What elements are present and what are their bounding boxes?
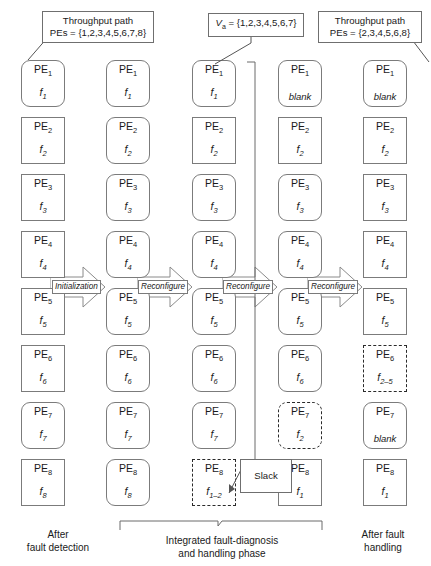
pe-box-after-fault-detection-pe7: PE7f7 <box>21 402 65 449</box>
callout-throughput-path-left: Throughput path PEs = {1,2,3,4,5,6,7,8} <box>42 11 154 43</box>
pe-task-label: f6 <box>107 372 149 387</box>
pe-task-label: f6 <box>193 372 235 387</box>
pe-id-label: PE7 <box>193 406 235 421</box>
pe-box-after-fault-handling-pe2: PE2f2 <box>363 117 407 164</box>
pe-id-label: PE3 <box>22 178 64 193</box>
pe-id-label: PE4 <box>279 235 321 250</box>
pe-box-after-fault-detection-pe4: PE4f4 <box>21 231 65 278</box>
pe-box-after-fault-handling-pe7: PE7blank <box>363 402 407 449</box>
caption-integrated-phase: Integrated fault-diagnosis and handling … <box>120 534 324 560</box>
pe-id-label: PE2 <box>193 121 235 136</box>
pe-id-label: PE4 <box>22 235 64 250</box>
pe-box-after-fault-handling-pe3: PE3f3 <box>363 174 407 221</box>
pe-box-after-fault-handling-pe6: PE6f2–5 <box>363 345 407 392</box>
pe-id-label: PE1 <box>107 64 149 79</box>
pe-box-initialized-pe8: PE8f8 <box>106 459 150 506</box>
pe-id-label: PE8 <box>364 463 406 478</box>
pe-box-after-fault-detection-pe5: PE5f5 <box>21 288 65 335</box>
pe-box-reconfigure-2-pe5: PE5f5 <box>278 288 322 335</box>
pe-box-after-fault-detection-pe6: PE6f6 <box>21 345 65 392</box>
pe-id-label: PE6 <box>193 349 235 364</box>
pe-box-reconfigure-2-pe6: PE6f6 <box>278 345 322 392</box>
callout-line-1: Throughput path <box>323 15 417 27</box>
arrow-label-reconfigure-1: Reconfigure <box>138 280 188 294</box>
pe-id-label: PE7 <box>364 406 406 421</box>
arrow-label-reconfigure-2: Reconfigure <box>223 280 273 294</box>
pe-id-label: PE3 <box>193 178 235 193</box>
pe-id-label: PE5 <box>364 292 406 307</box>
pe-box-initialized-pe5: PE5f5 <box>106 288 150 335</box>
pe-box-after-fault-handling-pe1: PE1blank <box>363 60 407 107</box>
pe-id-label: PE1 <box>364 64 406 79</box>
pe-box-initialized-pe2: PE2f2 <box>106 117 150 164</box>
pe-box-after-fault-handling-pe5: PE5f5 <box>363 288 407 335</box>
pe-id-label: PE6 <box>279 349 321 364</box>
pe-task-label: blank <box>279 91 321 102</box>
caption-line-1: After fault <box>340 528 426 541</box>
callout-va-text: Va = {1,2,3,4,5,6,7} <box>215 17 296 28</box>
pe-box-reconfigure-1-pe6: PE6f6 <box>192 345 236 392</box>
pe-id-label: PE7 <box>22 406 64 421</box>
caption-after-fault-handling: After fault handling <box>340 528 426 554</box>
pe-id-label: PE6 <box>364 349 406 364</box>
pe-task-label: f5 <box>107 315 149 330</box>
pe-task-label: f3 <box>364 201 406 216</box>
pe-id-label: PE4 <box>193 235 235 250</box>
leader-line-va <box>213 36 261 66</box>
arrow-label-initialization: Initialization <box>52 280 101 294</box>
caption-line-2: handling <box>340 541 426 554</box>
pe-id-label: PE3 <box>107 178 149 193</box>
pe-task-label: f4 <box>364 258 406 273</box>
pe-task-label: f4 <box>107 258 149 273</box>
pe-id-label: PE2 <box>279 121 321 136</box>
pe-task-label: f2 <box>22 144 64 159</box>
pe-task-label: f4 <box>193 258 235 273</box>
pe-task-label: f6 <box>22 372 64 387</box>
caption-line-2: fault detection <box>8 541 108 554</box>
pe-task-label: f5 <box>279 315 321 330</box>
pe-task-label: f5 <box>364 315 406 330</box>
callout-slack: Slack <box>240 459 292 493</box>
pe-task-label: f6 <box>279 372 321 387</box>
callout-throughput-path-right: Throughput path PEs = {2,3,4,5,6,8} <box>318 11 422 43</box>
pe-box-initialized-pe4: PE4f4 <box>106 231 150 278</box>
pe-box-reconfigure-2-pe1: PE1blank <box>278 60 322 107</box>
pe-box-reconfigure-2-pe3: PE3f3 <box>278 174 322 221</box>
pe-task-label: f1 <box>107 87 149 102</box>
pe-box-after-fault-detection-pe8: PE8f8 <box>21 459 65 506</box>
pe-task-label: f5 <box>193 315 235 330</box>
pe-id-label: PE6 <box>22 349 64 364</box>
caption-line-1: Integrated fault-diagnosis <box>120 534 324 547</box>
pe-id-label: PE1 <box>193 64 235 79</box>
pe-box-reconfigure-1-pe2: PE2f2 <box>192 117 236 164</box>
pe-box-reconfigure-2-pe4: PE4f4 <box>278 231 322 278</box>
pe-box-after-fault-handling-pe4: PE4f4 <box>363 231 407 278</box>
pe-id-label: PE6 <box>107 349 149 364</box>
pe-id-label: PE8 <box>22 463 64 478</box>
pe-id-label: PE5 <box>193 292 235 307</box>
pe-task-label: f1 <box>22 87 64 102</box>
pe-task-label: f8 <box>107 486 149 501</box>
pe-box-after-fault-detection-pe1: PE1f1 <box>21 60 65 107</box>
pe-id-label: PE5 <box>22 292 64 307</box>
pe-id-label: PE1 <box>279 64 321 79</box>
pe-task-label: f2 <box>279 144 321 159</box>
pe-id-label: PE5 <box>107 292 149 307</box>
caption-line-2: and handling phase <box>120 547 324 560</box>
pe-id-label: PE8 <box>107 463 149 478</box>
pe-task-label: f2 <box>364 144 406 159</box>
pe-task-label: f4 <box>22 258 64 273</box>
pe-task-label: f3 <box>22 201 64 216</box>
pe-box-initialized-pe7: PE7f7 <box>106 402 150 449</box>
pe-id-label: PE2 <box>364 121 406 136</box>
pe-box-reconfigure-1-pe7: PE7f7 <box>192 402 236 449</box>
arrow-label-reconfigure-3: Reconfigure <box>308 280 358 294</box>
pe-task-label: f3 <box>193 201 235 216</box>
pe-id-label: PE5 <box>279 292 321 307</box>
pe-id-label: PE1 <box>22 64 64 79</box>
pe-task-label: f1 <box>193 87 235 102</box>
caption-after-fault-detection: After fault detection <box>8 528 108 554</box>
pe-box-reconfigure-1-pe4: PE4f4 <box>192 231 236 278</box>
callout-line-2: PEs = {2,3,4,5,6,8} <box>323 27 417 39</box>
pe-task-label: f3 <box>279 201 321 216</box>
